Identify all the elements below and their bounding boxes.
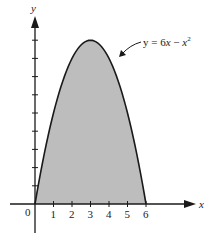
x-tick-label: 3 xyxy=(88,208,94,220)
x-tick-label: 5 xyxy=(125,208,131,220)
annotation-leader-line xyxy=(122,42,141,54)
function-label: y = 6x − x2 xyxy=(143,35,191,48)
x-axis-label: x xyxy=(198,198,204,210)
x-tick-label: 2 xyxy=(69,208,75,220)
area-under-curve-chart: 123456 x y 0 y = 6x − x2 xyxy=(0,0,209,240)
x-axis-arrow-icon xyxy=(184,200,196,208)
x-tick-label: 4 xyxy=(106,208,112,220)
origin-label: 0 xyxy=(25,206,31,218)
function-label-lhs: y = 6 xyxy=(143,36,166,48)
x-tick-label: 6 xyxy=(143,208,149,220)
x-tick-label: 1 xyxy=(51,208,57,220)
y-axis-arrow-icon xyxy=(31,16,39,28)
y-axis-label: y xyxy=(30,2,36,14)
function-label-minus: − xyxy=(171,36,183,48)
function-label-exponent: 2 xyxy=(187,35,191,43)
